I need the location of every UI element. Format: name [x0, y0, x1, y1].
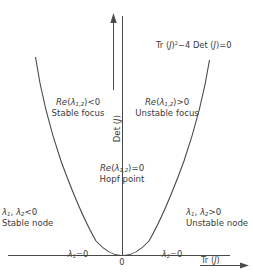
stable-focus-line1: Re(λ1,2)<0: [52, 97, 105, 108]
curve-eq-mid: −4 Det (: [178, 40, 214, 50]
stable-node-line2: Stable node: [2, 218, 53, 228]
x-axis-label-close: ): [217, 255, 220, 265]
y-axis-label: Det (J): [112, 115, 122, 142]
stable-focus-re: Re: [56, 97, 67, 107]
x-axis-arrow-head: [240, 262, 249, 268]
hopf-re: Re: [100, 163, 111, 173]
y-axis-arrow-head: [110, 13, 116, 23]
lambda1-zero-label: λ1=0: [68, 249, 88, 259]
x-axis-label-base: Tr (: [201, 255, 214, 265]
hopf-sub: 1,2: [120, 167, 128, 173]
region-stable-node: λ1, λ2<0 Stable node: [2, 207, 53, 228]
x-axis-label: Tr (J): [201, 255, 220, 265]
origin-label: 0: [119, 257, 124, 267]
stable-focus-close: )<0: [84, 97, 100, 107]
unstable-node-close: >0: [208, 207, 221, 217]
y-axis-label-var: J: [112, 118, 122, 121]
region-stable-focus: Re(λ1,2)<0 Stable focus: [52, 97, 105, 118]
hopf-point-line1: Re(λ1,2)=0: [100, 163, 145, 174]
stable-node-line1: λ1, λ2<0: [2, 207, 53, 218]
region-hopf-point: Re(λ1,2)=0 Hopf point: [100, 163, 145, 184]
curve-eq-tr: Tr (: [156, 40, 169, 50]
unstable-focus-re: Re: [145, 97, 156, 107]
unstable-focus-close: )>0: [173, 97, 189, 107]
y-axis-label-close: ): [112, 115, 122, 118]
curve-eq-end: )=0: [216, 40, 231, 50]
y-axis-label-base: Det (: [112, 121, 122, 142]
unstable-node-line2: Unstable node: [186, 218, 248, 228]
region-unstable-focus: Re(λ1,2)>0 Unstable focus: [135, 97, 199, 118]
stable-focus-line2: Stable focus: [52, 108, 105, 118]
region-unstable-node: λ1, λ2>0 Unstable node: [186, 207, 248, 228]
lambda2-suffix: =0: [170, 249, 182, 259]
stable-focus-sub: 1,2: [76, 101, 84, 107]
unstable-focus-sub: 1,2: [165, 101, 173, 107]
stable-node-close: <0: [24, 207, 37, 217]
unstable-focus-line2: Unstable focus: [135, 108, 199, 118]
unstable-focus-line1: Re(λ1,2)>0: [135, 97, 199, 108]
unstable-node-line1: λ1, λ2>0: [186, 207, 248, 218]
hopf-close: )=0: [128, 163, 144, 173]
lambda1-suffix: =0: [76, 249, 88, 259]
curve-equation-label: Tr (J)2−4 Det (J)=0: [156, 40, 232, 50]
hopf-point-line2: Hopf point: [100, 174, 145, 184]
lambda2-zero-label: λ2=0: [162, 249, 182, 259]
